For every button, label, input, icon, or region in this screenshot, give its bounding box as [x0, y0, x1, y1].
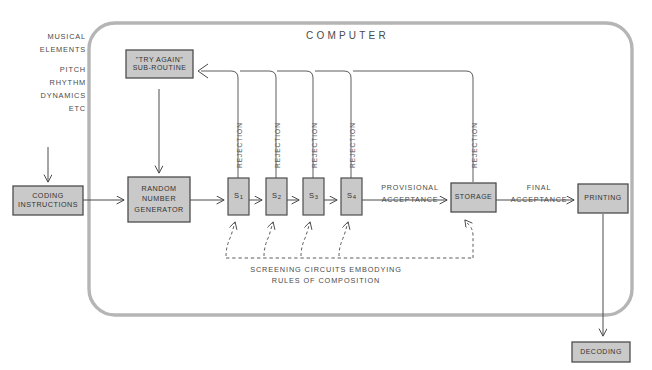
screening-bus — [232, 246, 238, 256]
caption-line2: RULES OF COMPOSITION — [0, 276, 652, 287]
rejection-label-s2: REJECTION — [274, 122, 281, 168]
box-screen-s1 — [228, 178, 249, 215]
rejection-path-storage — [353, 71, 473, 182]
box-screen-s4 — [341, 178, 362, 215]
box-decoding — [572, 342, 630, 362]
box-try-again — [126, 50, 193, 78]
rejection-label-storage: REJECTION — [471, 122, 478, 168]
screening-dashed-s3 — [301, 222, 310, 256]
box-storage — [451, 183, 496, 212]
rejection-label-s4: REJECTION — [349, 122, 356, 168]
box-screen-s2 — [266, 178, 287, 215]
input-item-pitch: PITCH — [0, 64, 86, 77]
caption-line1: SCREENING CIRCUITS EMBODYING — [0, 265, 652, 276]
edge-label-final-acceptance: FINAL ACCEPTANCE — [504, 182, 574, 206]
screening-dashed-s4 — [339, 222, 348, 256]
final-line1: FINAL — [504, 182, 574, 194]
input-spacer — [0, 57, 86, 64]
rejection-path-s3 — [277, 71, 313, 178]
rejection-path-s4 — [315, 71, 351, 178]
diagram-canvas: COMPUTER MUSICAL ELEMENTS PITCH RHYTHM D… — [0, 0, 652, 370]
input-elements-block: MUSICAL ELEMENTS PITCH RHYTHM DYNAMICS E… — [0, 31, 86, 116]
provisional-line1: PROVISIONAL — [372, 182, 448, 194]
edge-label-provisional-acceptance: PROVISIONAL ACCEPTANCE — [372, 182, 448, 206]
input-item-dynamics: DYNAMICS — [0, 90, 86, 103]
rejection-label-s1: REJECTION — [236, 122, 243, 168]
rejection-label-s3: REJECTION — [311, 122, 318, 168]
input-heading-line2: ELEMENTS — [0, 44, 86, 57]
rejection-path-s1 — [201, 71, 238, 178]
input-item-rhythm: RHYTHM — [0, 77, 86, 90]
screening-dashed-s1 — [226, 222, 235, 256]
box-random-number-generator — [128, 177, 190, 222]
input-heading-line1: MUSICAL — [0, 31, 86, 44]
provisional-line2: ACCEPTANCE — [372, 194, 448, 206]
rejection-path-s2 — [240, 71, 276, 178]
screening-dashed-storage — [465, 220, 473, 258]
box-screen-s3 — [303, 178, 324, 215]
final-line2: ACCEPTANCE — [504, 194, 574, 206]
screening-dashed-s2 — [264, 222, 273, 256]
screening-caption: SCREENING CIRCUITS EMBODYING RULES OF CO… — [0, 265, 652, 287]
box-printing — [578, 184, 628, 213]
box-coding-instructions — [13, 186, 83, 215]
enclosure-title: COMPUTER — [306, 30, 389, 41]
input-item-etc: ETC — [0, 103, 86, 116]
